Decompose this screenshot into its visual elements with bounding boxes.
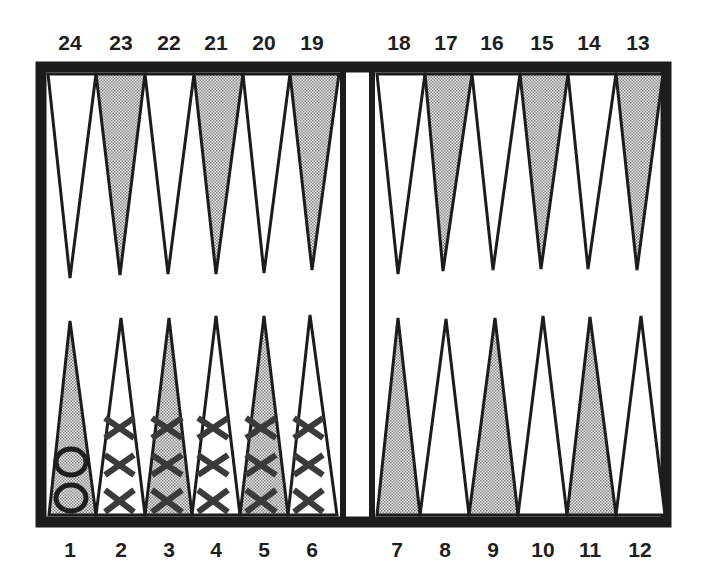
point-label-8: 8 [425,538,465,562]
point-label-4: 4 [196,538,236,562]
point-label-10: 10 [523,538,563,562]
point-label-3: 3 [149,538,189,562]
point-label-2: 2 [101,538,141,562]
point-label-7: 7 [377,538,417,562]
point-label-9: 9 [473,538,513,562]
backgammon-board [0,0,705,584]
point-label-5: 5 [244,538,284,562]
point-label-6: 6 [292,538,332,562]
point-label-11: 11 [570,538,610,562]
point-label-1: 1 [50,538,90,562]
point-label-12: 12 [620,538,660,562]
